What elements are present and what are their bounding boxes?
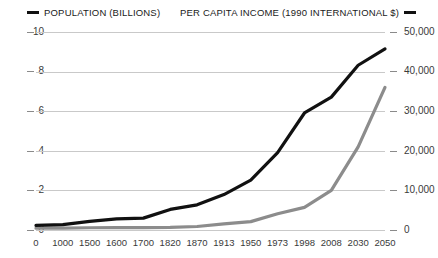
y-axis-right-tickmark bbox=[390, 71, 397, 72]
y-axis-right-tick-40000: 40,000 bbox=[404, 66, 435, 76]
legend-label-population: POPULATION (BILLIONS) bbox=[44, 7, 160, 18]
y-axis-right-tick-10000: 10,000 bbox=[404, 185, 435, 195]
legend-entry-per-capita-income: PER CAPITA INCOME (1990 INTERNATIONAL $) bbox=[180, 7, 416, 18]
y-axis-right-tick-20000: 20,000 bbox=[404, 146, 435, 156]
x-axis-tick-1913: 1913 bbox=[213, 238, 234, 248]
x-axis-tick-1973: 1973 bbox=[267, 238, 288, 248]
x-axis-tick-2050: 2050 bbox=[374, 238, 395, 248]
x-axis-tick-2008: 2008 bbox=[321, 238, 342, 248]
x-axis-tick-1700: 1700 bbox=[133, 238, 154, 248]
y-axis-right-tickmark bbox=[390, 111, 397, 112]
series-line-population bbox=[36, 49, 385, 226]
y-axis-right-tick-0: 0 bbox=[404, 225, 410, 235]
x-axis-tick-1950: 1950 bbox=[240, 238, 261, 248]
x-axis-tick-1600: 1600 bbox=[106, 238, 127, 248]
x-axis-tick-1500: 1500 bbox=[79, 238, 100, 248]
y-axis-left-tickmark bbox=[27, 190, 34, 191]
y-axis-right-tickmark bbox=[390, 151, 397, 152]
x-axis-tick-1998: 1998 bbox=[294, 238, 315, 248]
y-axis-left-tickmark bbox=[27, 111, 34, 112]
series-line-per-capita-income bbox=[36, 87, 385, 228]
plot-area bbox=[36, 32, 385, 230]
y-axis-left-tickmark bbox=[27, 151, 34, 152]
x-axis-tick-1870: 1870 bbox=[187, 238, 208, 248]
y-axis-left-tickmark bbox=[27, 230, 34, 231]
chart-legend: POPULATION (BILLIONS) PER CAPITA INCOME … bbox=[0, 6, 438, 24]
x-axis-tick-1000: 1000 bbox=[52, 238, 73, 248]
y-axis-right-tick-30000: 30,000 bbox=[404, 106, 435, 116]
chart-container: POPULATION (BILLIONS) PER CAPITA INCOME … bbox=[0, 0, 438, 258]
y-axis-right-tickmark bbox=[390, 32, 397, 33]
x-axis-tick-0: 0 bbox=[33, 238, 38, 248]
y-axis-left-tickmark bbox=[27, 71, 34, 72]
series-svg bbox=[36, 32, 385, 230]
x-axis-tick-2030: 2030 bbox=[348, 238, 369, 248]
legend-entry-population: POPULATION (BILLIONS) bbox=[27, 7, 160, 18]
legend-swatch-per-capita-income-icon bbox=[404, 11, 416, 14]
x-axis-tick-1820: 1820 bbox=[160, 238, 181, 248]
legend-label-per-capita-income: PER CAPITA INCOME (1990 INTERNATIONAL $) bbox=[180, 7, 399, 18]
legend-swatch-population-icon bbox=[27, 11, 39, 14]
y-axis-right-tick-50000: 50,000 bbox=[404, 27, 435, 37]
gridline bbox=[36, 230, 385, 231]
y-axis-right-tickmark bbox=[390, 190, 397, 191]
y-axis-left-tickmark bbox=[27, 32, 34, 33]
y-axis-right-tickmark bbox=[390, 230, 397, 231]
